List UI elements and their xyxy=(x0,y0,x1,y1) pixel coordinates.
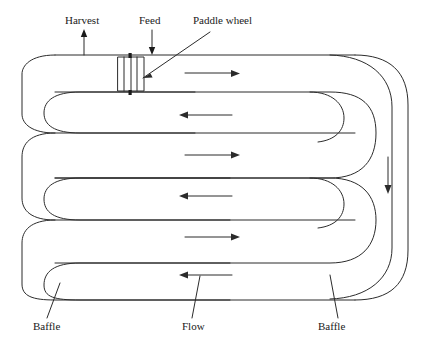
harvest-arrow-head xyxy=(81,29,87,37)
baffle-tip-left-3 xyxy=(44,263,230,300)
flow-arrow-head-5 xyxy=(231,234,240,241)
flow-arrow-head-4 xyxy=(179,193,188,200)
flow-leader-line xyxy=(192,276,200,318)
flow-arrow-head-3 xyxy=(231,152,240,159)
baffle-tip-left-1 xyxy=(44,92,195,133)
label-baffle-left: Baffle xyxy=(33,320,60,332)
baffle-tip-left-2 xyxy=(44,178,230,220)
feed-arrow-group xyxy=(149,30,155,55)
baffle-wall-upper xyxy=(55,92,376,178)
outer-wall-left-lobe-1 xyxy=(22,55,355,133)
flow-arrow-head-6 xyxy=(179,272,188,279)
feed-arrow-head xyxy=(149,47,155,55)
flow-arrow-head-right xyxy=(385,185,392,194)
outer-wall-right xyxy=(355,55,408,300)
label-harvest: Harvest xyxy=(65,14,99,26)
outer-wall-left-lobe-3 xyxy=(22,220,355,300)
outer-wall-left-lobe-2 xyxy=(22,133,355,220)
label-flow: Flow xyxy=(182,320,205,332)
label-feed: Feed xyxy=(139,14,160,26)
harvest-arrow-group xyxy=(81,29,87,55)
flow-arrow-head-1 xyxy=(231,70,240,77)
flow-arrow-group xyxy=(179,70,392,279)
label-baffle-right: Baffle xyxy=(318,320,345,332)
paddle-wheel-axle-bottom xyxy=(129,90,132,95)
baffle-right-leader-line xyxy=(330,275,338,318)
baffle-tip-right-1 xyxy=(310,92,344,142)
paddle-wheel-axle-top xyxy=(129,53,132,58)
paddle-wheel-assembly xyxy=(118,53,144,95)
label-paddle-wheel: Paddle wheel xyxy=(193,14,252,26)
raceway-pond-diagram xyxy=(0,0,429,354)
flow-arrow-head-2 xyxy=(179,112,188,119)
